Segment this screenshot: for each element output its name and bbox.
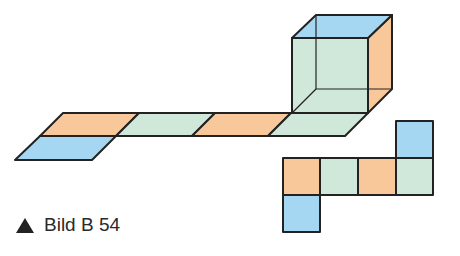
net-row-4 — [396, 158, 433, 195]
net-top-blue — [396, 121, 433, 158]
net-row-2 — [320, 158, 358, 195]
strip-blue-flap — [15, 136, 116, 160]
net-row-1 — [283, 158, 320, 195]
caption-text: Bild B 54 — [44, 214, 120, 236]
net-row-3 — [358, 158, 396, 195]
figure-caption: Bild B 54 — [16, 214, 120, 236]
net-bottom-blue — [283, 195, 320, 232]
triangle-marker-icon — [16, 218, 34, 233]
